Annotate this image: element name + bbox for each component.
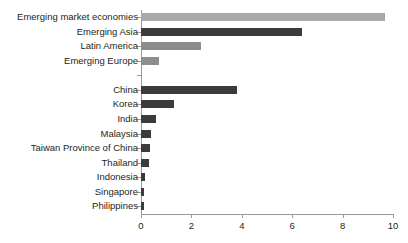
bar	[141, 100, 174, 108]
x-axis-tick-label: 10	[378, 220, 408, 232]
bar-row: Indonesia	[0, 170, 408, 185]
x-axis-line	[141, 214, 393, 215]
x-axis-tick	[343, 214, 344, 218]
category-label: Latin America	[2, 39, 138, 54]
x-axis-tick-label: 0	[126, 220, 156, 232]
category-label: China	[2, 83, 138, 98]
bar	[141, 115, 156, 123]
bar	[141, 86, 237, 94]
bar-row: Latin America	[0, 39, 408, 54]
bar	[141, 13, 385, 21]
bar	[141, 130, 151, 138]
category-label: Philippines	[2, 199, 138, 214]
x-axis-tick	[141, 214, 142, 218]
x-axis-tick-label: 8	[328, 220, 358, 232]
x-axis-tick	[393, 214, 394, 218]
bar-row: Singapore	[0, 185, 408, 200]
bar-row: Malaysia	[0, 127, 408, 142]
category-label: Emerging Asia	[2, 25, 138, 40]
category-label: Emerging Europe	[2, 54, 138, 69]
bar	[141, 173, 145, 181]
bar-row: Korea	[0, 97, 408, 112]
bar-row: Emerging market economies	[0, 10, 408, 25]
bar	[141, 57, 159, 65]
bar-row: Taiwan Province of China	[0, 141, 408, 156]
plot-area: Emerging market economiesEmerging AsiaLa…	[0, 0, 408, 243]
category-label: Malaysia	[2, 127, 138, 142]
bar	[141, 188, 144, 196]
bar-row	[0, 68, 408, 83]
x-axis-tick	[292, 214, 293, 218]
bar-row: Philippines	[0, 199, 408, 214]
category-label: Korea	[2, 97, 138, 112]
bar	[141, 42, 201, 50]
x-axis-tick	[191, 214, 192, 218]
bar-row: India	[0, 112, 408, 127]
category-label: Indonesia	[2, 170, 138, 185]
category-label: Taiwan Province of China	[2, 141, 138, 156]
bar-row: Emerging Europe	[0, 54, 408, 69]
category-label: Emerging market economies	[2, 10, 138, 25]
bar-row: China	[0, 83, 408, 98]
bar	[141, 28, 302, 36]
y-axis-tick	[137, 75, 141, 76]
bar-row: Thailand	[0, 156, 408, 171]
category-label: Singapore	[2, 185, 138, 200]
bar-row: Emerging Asia	[0, 25, 408, 40]
bar	[141, 144, 150, 152]
x-axis-tick-label: 2	[176, 220, 206, 232]
x-axis-tick-label: 4	[227, 220, 257, 232]
category-label: Thailand	[2, 156, 138, 171]
category-label: India	[2, 112, 138, 127]
bar	[141, 202, 144, 210]
x-axis-tick	[242, 214, 243, 218]
x-axis-tick-label: 6	[277, 220, 307, 232]
bar-chart: Emerging market economiesEmerging AsiaLa…	[0, 0, 408, 243]
bar	[141, 159, 149, 167]
